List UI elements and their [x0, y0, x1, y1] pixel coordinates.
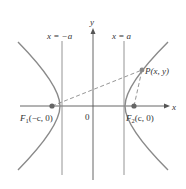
dashed-f1-to-p [52, 70, 142, 106]
label-x-neg-a: x = −a [46, 31, 73, 41]
label-x-pos-a: x = a [111, 31, 132, 41]
x-axis-label: x [171, 102, 176, 112]
focus-f2-label: F2(c, 0) [125, 113, 154, 124]
y-axis-label: y [89, 17, 94, 27]
point-p-label: P(x, y) [144, 66, 169, 76]
f1-coords: (−c, 0) [29, 113, 53, 123]
focus-f1-label: F1(−c, 0) [19, 113, 53, 124]
origin-label: 0 [85, 112, 90, 122]
focus-f1-dot [49, 103, 54, 108]
hyperbola-diagram: y x 0 x = −a x = a P(x, y) F1(−c, 0) F2(… [0, 0, 186, 189]
point-p-dot [140, 68, 145, 73]
x-axis-arrow-icon [164, 104, 170, 109]
focus-f2-dot [131, 103, 136, 108]
f2-coords: (c, 0) [135, 113, 154, 123]
y-axis-arrow-icon [91, 28, 96, 34]
